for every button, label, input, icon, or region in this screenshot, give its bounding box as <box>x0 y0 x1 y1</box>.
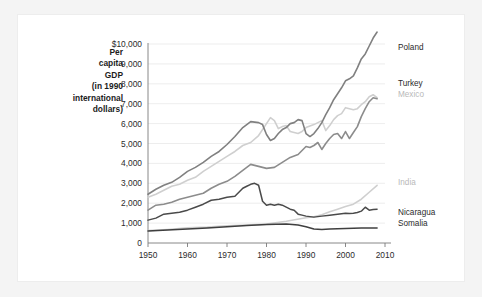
x-axis-tick-label: 1980 <box>257 250 276 260</box>
y-axis-title-line: Per <box>109 47 123 57</box>
page-background: $10,0009,0008,0007,0006,0005,0004,0003,0… <box>0 0 482 297</box>
y-axis-tick-label: 6,000 <box>121 119 142 129</box>
chart-svg: $10,0009,0008,0007,0006,0005,0004,0003,0… <box>18 15 464 281</box>
series-line-mexico <box>148 95 377 197</box>
series-label-india: India <box>398 178 416 187</box>
y-axis-tick-label: 7,000 <box>121 99 142 109</box>
series-label-mexico: Mexico <box>398 90 424 99</box>
x-axis-tick-label: 1990 <box>297 250 316 260</box>
y-axis-tick-label: 9,000 <box>121 59 142 69</box>
series-line-india <box>148 185 377 230</box>
y-axis-title-line: dollars) <box>93 104 123 114</box>
series-line-turkey <box>148 98 377 210</box>
y-axis-tick-label: 5,000 <box>121 139 142 149</box>
gdp-line-chart: $10,0009,0008,0007,0006,0005,0004,0003,0… <box>18 15 464 281</box>
x-axis-tick-label: 1970 <box>218 250 237 260</box>
x-axis-tick-label: 2000 <box>336 250 355 260</box>
series-label-somalia: Somalia <box>398 219 428 228</box>
series-label-nicaragua: Nicaragua <box>398 208 436 217</box>
y-axis-tick-label: 4,000 <box>121 158 142 168</box>
y-axis-tick-label: 3,000 <box>121 178 142 188</box>
y-axis-tick-label: 2,000 <box>121 198 142 208</box>
series-line-nicaragua <box>148 183 377 220</box>
y-axis-title-line: capita <box>99 58 124 68</box>
y-axis-tick-label: 0 <box>137 238 142 248</box>
x-axis-tick-label: 1950 <box>139 250 158 260</box>
y-axis-title-line: (in 1990 <box>92 81 124 91</box>
y-axis-title-line: GDP <box>105 70 124 80</box>
y-axis-tick-label: 8,000 <box>121 79 142 89</box>
series-label-turkey: Turkey <box>398 79 424 88</box>
series-label-poland: Poland <box>398 43 424 52</box>
y-axis-tick-label: 1,000 <box>121 218 142 228</box>
x-axis-tick-label: 2010 <box>376 250 395 260</box>
y-axis-title-line: international <box>73 93 123 103</box>
chart-card: $10,0009,0008,0007,0006,0005,0004,0003,0… <box>18 15 464 281</box>
x-axis-tick-label: 1960 <box>178 250 197 260</box>
